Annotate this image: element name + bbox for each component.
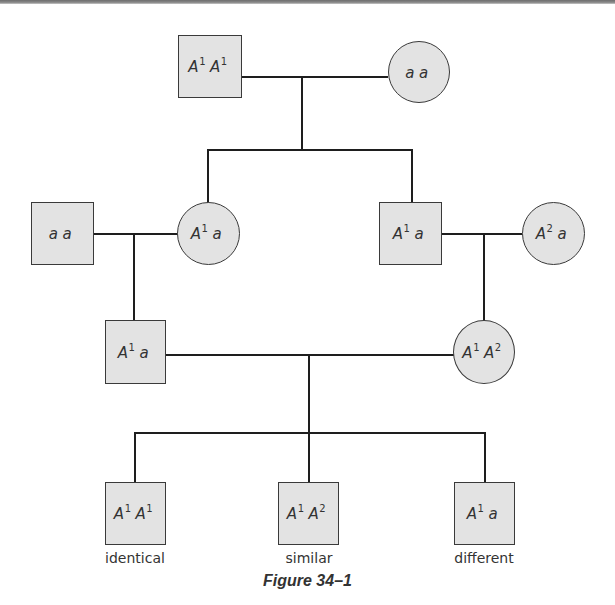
individual-g3-male: A1a <box>105 320 166 384</box>
child-3-relation-label: different <box>424 550 544 566</box>
couple-line-g2-left <box>93 233 178 235</box>
child-2-relation-label: similar <box>249 550 369 566</box>
genotype-label: A1A2 <box>287 504 330 523</box>
drop-g2-daughter <box>207 149 209 203</box>
genotype-label: A1A1 <box>188 57 231 76</box>
drop-g4-child-3 <box>484 432 486 483</box>
genotype-label: A1a <box>191 224 226 243</box>
descent-line-g2-left <box>133 233 135 321</box>
individual-g1-male: A1A1 <box>178 35 242 98</box>
couple-line-g1 <box>242 76 388 78</box>
figure-caption: Figure 34–1 <box>0 572 615 590</box>
individual-g4-child-2: A1A2 <box>278 482 339 545</box>
individual-g2-daughter: A1a <box>177 202 240 265</box>
individual-g2-spouse-female: A2a <box>522 202 585 265</box>
couple-line-g2-right <box>442 233 522 235</box>
genotype-label: A1a <box>393 224 428 243</box>
individual-g2-son: A1a <box>379 202 442 265</box>
descent-line-g1 <box>301 76 303 151</box>
individual-g4-child-1: A1A1 <box>105 482 166 545</box>
individual-g1-female: aa <box>388 41 450 103</box>
top-border-bar <box>0 0 615 4</box>
individual-g2-spouse-male: aa <box>31 202 94 265</box>
genotype-label: A1a <box>118 343 153 362</box>
genotype-label: A1A1 <box>114 504 157 523</box>
genotype-label: aa <box>405 63 432 82</box>
drop-g2-son <box>411 149 413 203</box>
genotype-label: A1A2 <box>462 343 505 362</box>
child-1-relation-label: identical <box>75 550 195 566</box>
genotype-label: A1a <box>467 504 502 523</box>
drop-g4-child-2 <box>308 432 310 483</box>
genotype-label: A2a <box>536 224 571 243</box>
individual-g4-child-3: A1a <box>454 482 515 545</box>
genotype-label: aa <box>49 224 76 243</box>
drop-g4-child-1 <box>134 432 136 483</box>
sibling-bar-g2 <box>207 149 413 151</box>
individual-g3-female: A1A2 <box>453 320 515 384</box>
descent-line-g3 <box>308 354 310 433</box>
sibling-bar-g4 <box>134 432 486 434</box>
descent-line-g2-right <box>483 233 485 321</box>
